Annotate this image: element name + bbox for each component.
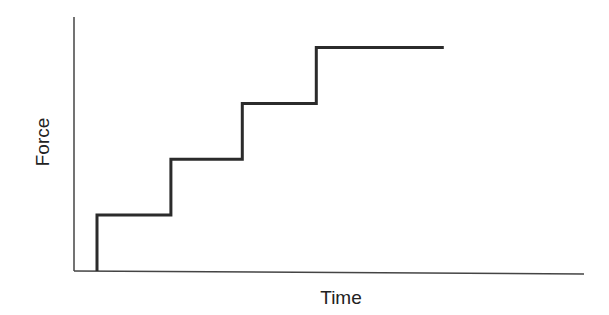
step-chart: Time Force (0, 0, 609, 315)
series-line-0 (97, 48, 444, 272)
x-axis-label: Time (320, 287, 362, 308)
series-group (97, 48, 444, 272)
y-axis-label: Force (32, 118, 53, 167)
axes (74, 17, 584, 274)
x-axis (74, 271, 584, 274)
